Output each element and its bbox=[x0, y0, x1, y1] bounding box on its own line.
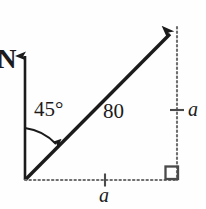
north-axis-label: N bbox=[0, 46, 17, 73]
vector-diagram-figure: N 45° 80 a a bbox=[0, 0, 206, 209]
horizontal-side-label: a bbox=[99, 185, 109, 205]
angle-label: 45° bbox=[34, 99, 63, 120]
angle-arc bbox=[25, 128, 56, 144]
vector-magnitude-label: 80 bbox=[103, 101, 124, 122]
vertical-side-label: a bbox=[188, 99, 198, 119]
